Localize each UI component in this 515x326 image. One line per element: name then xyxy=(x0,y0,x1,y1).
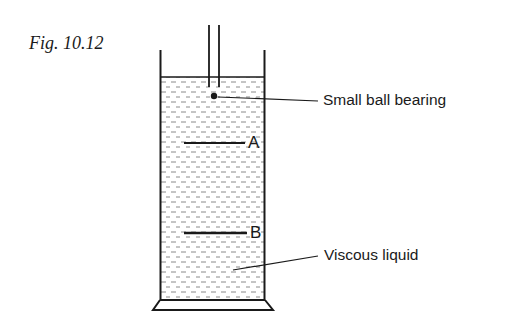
label-mark-b: B xyxy=(250,223,261,243)
apparatus-diagram xyxy=(0,0,515,326)
container-base xyxy=(153,300,273,310)
ball-bearing xyxy=(211,93,217,99)
label-mark-a: A xyxy=(248,133,259,153)
viscous-liquid xyxy=(161,77,264,299)
label-viscous-liquid: Viscous liquid xyxy=(324,246,419,264)
label-small-ball-bearing: Small ball bearing xyxy=(323,91,446,109)
